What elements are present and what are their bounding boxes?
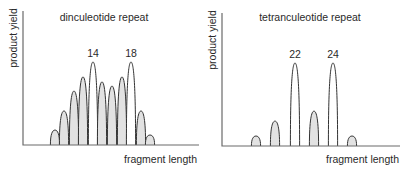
x-axis-label: fragment length xyxy=(326,153,399,165)
peak-label: 14 xyxy=(87,47,99,59)
stutter-peak xyxy=(145,135,154,145)
allele-peak xyxy=(328,63,337,146)
stutter-peak xyxy=(347,136,356,146)
y-axis-label: product yield xyxy=(206,10,218,70)
peak-label: 18 xyxy=(125,47,137,59)
panel-tetranucleotide: tetranculeotide repeat product yield 222… xyxy=(206,10,400,165)
stutter-peak xyxy=(251,136,260,146)
peaks: 2224 xyxy=(251,48,356,146)
stutter-peak xyxy=(309,111,318,146)
panel-title: tetranculeotide repeat xyxy=(259,11,361,23)
stutter-peak xyxy=(136,111,145,145)
x-axis-label: fragment length xyxy=(124,153,197,165)
stutter-peak xyxy=(78,77,87,145)
allele-peak xyxy=(290,63,299,146)
peak-label: 24 xyxy=(327,48,339,60)
stutter-peak xyxy=(69,91,78,145)
stutter-peak xyxy=(107,86,116,145)
stutter-peak-figure: dinculeotide repeat product yield 1418 f… xyxy=(0,0,410,171)
stutter-peak xyxy=(117,77,126,145)
y-axis-label: product yield xyxy=(7,8,19,68)
peak-label: 22 xyxy=(289,48,301,60)
allele-peak xyxy=(126,62,135,145)
peaks: 1418 xyxy=(50,47,154,145)
stutter-peak xyxy=(97,82,106,145)
panel-title: dinculeotide repeat xyxy=(60,11,149,23)
panel-dinucleotide: dinculeotide repeat product yield 1418 f… xyxy=(7,8,199,165)
stutter-peak xyxy=(59,111,68,145)
allele-peak xyxy=(88,62,97,145)
stutter-peak xyxy=(50,130,59,145)
stutter-peak xyxy=(270,121,279,146)
